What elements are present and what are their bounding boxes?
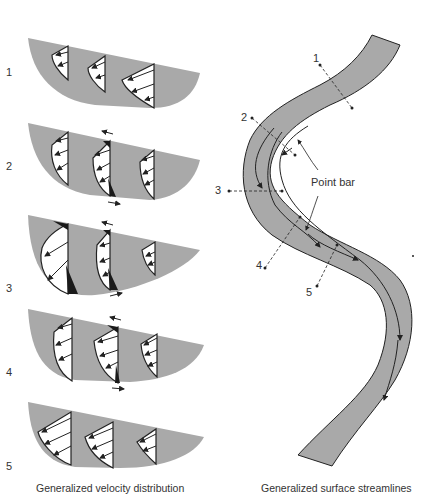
- cross-section-3: [28, 215, 200, 296]
- velocity-distribution-caption: Generalized velocity distribution: [36, 482, 184, 494]
- cross-section-1: [28, 38, 200, 108]
- section-label-5: 5: [6, 460, 12, 472]
- section-label-1: 1: [6, 66, 12, 78]
- plan-section-label-4: 4: [256, 259, 262, 271]
- point-bar-label: Point bar: [311, 176, 355, 188]
- cross-section-2: [28, 123, 200, 204]
- surface-streamlines-caption: Generalized surface streamlines: [261, 482, 412, 494]
- cross-section-5: [28, 402, 204, 468]
- diagram-canvas: [0, 0, 433, 504]
- plan-section-label-2: 2: [241, 111, 247, 123]
- meander-channel: [243, 35, 412, 466]
- plan-section-label-3: 3: [215, 184, 221, 196]
- plan-section-label-1: 1: [313, 52, 319, 64]
- plan-section-label-5: 5: [306, 286, 312, 298]
- section-label-2: 2: [6, 160, 12, 172]
- cross-section-4: [28, 309, 204, 389]
- section-label-3: 3: [6, 282, 12, 294]
- section-label-4: 4: [6, 366, 12, 378]
